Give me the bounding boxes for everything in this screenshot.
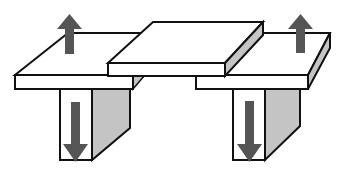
left-leg-side-shade [92, 88, 130, 160]
diagram-canvas [0, 0, 347, 178]
center-plate-front-face [108, 63, 225, 76]
right-leg-side-shade [265, 88, 300, 160]
right-plate-front-face [196, 75, 308, 89]
left-plate-side-shade [133, 75, 145, 89]
left-plate-front-face [15, 75, 133, 89]
plates-and-legs-diagram [0, 0, 347, 178]
